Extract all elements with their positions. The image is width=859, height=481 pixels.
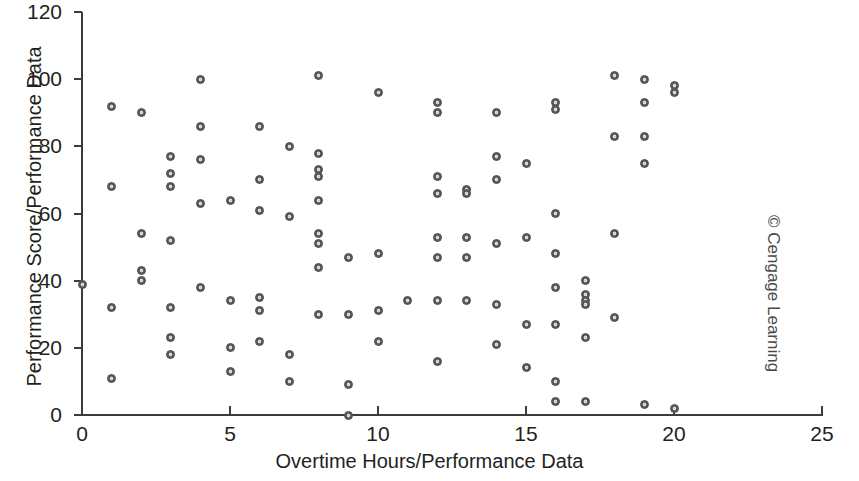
x-tick-label: 20 xyxy=(644,423,704,444)
data-point xyxy=(462,253,471,262)
data-point xyxy=(137,108,146,117)
plot-area xyxy=(82,12,822,415)
data-point xyxy=(374,337,383,346)
data-point xyxy=(78,280,87,289)
data-point xyxy=(314,149,323,158)
data-point xyxy=(196,199,205,208)
data-point xyxy=(551,283,560,292)
data-point xyxy=(640,159,649,168)
data-point xyxy=(374,88,383,97)
data-point xyxy=(670,404,679,413)
data-point xyxy=(522,233,531,242)
data-point xyxy=(226,296,235,305)
y-tick-mark xyxy=(74,78,82,80)
data-point xyxy=(522,159,531,168)
data-point xyxy=(137,276,146,285)
data-point xyxy=(551,105,560,114)
data-point xyxy=(581,397,590,406)
data-point xyxy=(344,310,353,319)
data-point xyxy=(255,206,264,215)
data-point xyxy=(492,300,501,309)
x-tick-mark xyxy=(821,406,823,415)
data-point xyxy=(255,122,264,131)
x-tick-label: 5 xyxy=(200,423,260,444)
data-point xyxy=(196,283,205,292)
data-point xyxy=(166,169,175,178)
x-axis-title: Overtime Hours/Performance Data xyxy=(0,450,859,473)
data-point xyxy=(433,172,442,181)
data-point xyxy=(314,196,323,205)
copyright-credit: © Cengage Learning xyxy=(763,215,783,475)
data-point xyxy=(551,377,560,386)
data-point xyxy=(374,306,383,315)
data-point xyxy=(581,333,590,342)
y-tick-mark xyxy=(74,347,82,349)
x-tick-mark xyxy=(377,406,379,415)
data-point xyxy=(492,340,501,349)
data-point xyxy=(640,98,649,107)
data-point xyxy=(433,233,442,242)
data-point xyxy=(285,212,294,221)
data-point xyxy=(137,266,146,275)
y-tick-mark xyxy=(74,11,82,13)
x-axis-line xyxy=(82,414,823,416)
data-point xyxy=(137,229,146,238)
data-point xyxy=(522,363,531,372)
x-tick-label: 15 xyxy=(496,423,556,444)
x-tick-mark xyxy=(525,406,527,415)
data-point xyxy=(285,142,294,151)
data-point xyxy=(433,296,442,305)
x-tick-label: 25 xyxy=(792,423,852,444)
x-tick-mark xyxy=(229,406,231,415)
y-axis-title: Performance Score/Performance Data xyxy=(23,17,46,417)
data-point xyxy=(107,102,116,111)
data-point xyxy=(314,263,323,272)
scatter-plot-figure: 020406080100120 0510152025 Overtime Hour… xyxy=(0,0,859,481)
data-point xyxy=(344,253,353,262)
data-point xyxy=(581,276,590,285)
data-point xyxy=(374,249,383,258)
data-point xyxy=(196,122,205,131)
data-point xyxy=(670,88,679,97)
data-point xyxy=(551,320,560,329)
data-point xyxy=(433,189,442,198)
y-tick-mark xyxy=(74,145,82,147)
data-point xyxy=(522,320,531,329)
data-point xyxy=(640,132,649,141)
data-point xyxy=(255,337,264,346)
data-point xyxy=(433,98,442,107)
data-point xyxy=(610,132,619,141)
data-point xyxy=(433,108,442,117)
data-point xyxy=(462,233,471,242)
data-point xyxy=(314,310,323,319)
data-point xyxy=(581,300,590,309)
data-point xyxy=(226,196,235,205)
data-point xyxy=(433,253,442,262)
data-point xyxy=(285,377,294,386)
data-point xyxy=(433,357,442,366)
x-tick-mark xyxy=(81,406,83,415)
data-point xyxy=(492,152,501,161)
data-point xyxy=(226,343,235,352)
x-tick-label: 0 xyxy=(52,423,112,444)
data-point xyxy=(285,350,294,359)
data-point xyxy=(196,75,205,84)
data-point xyxy=(640,75,649,84)
y-tick-mark xyxy=(74,213,82,215)
data-point xyxy=(344,411,353,420)
x-tick-label: 10 xyxy=(348,423,408,444)
data-point xyxy=(226,367,235,376)
data-point xyxy=(107,374,116,383)
data-point xyxy=(255,293,264,302)
